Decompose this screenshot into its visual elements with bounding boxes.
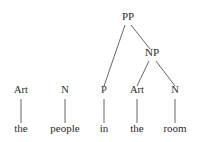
node-pp: PP	[122, 11, 134, 22]
word-in: in	[100, 123, 109, 134]
tree-edge-layer	[0, 0, 200, 142]
pos-node-n-1: N	[61, 85, 69, 96]
pos-node-n-2: N	[171, 85, 179, 96]
tree-edge-np-to-n	[156, 61, 175, 86]
word-the-2: the	[130, 123, 143, 134]
tree-edge-np-to-art	[137, 61, 149, 86]
pos-node-p: P	[101, 85, 107, 96]
pos-node-art-2: Art	[130, 85, 144, 96]
word-people: people	[50, 123, 79, 134]
word-room: room	[163, 123, 186, 134]
pos-node-art-1: Art	[14, 85, 28, 96]
tree-edge-pp-to-p	[104, 25, 125, 86]
syntax-tree-figure: PP NP Art N P Art N the people in the ro…	[0, 0, 200, 142]
word-the-1: the	[14, 123, 27, 134]
node-np: NP	[145, 47, 159, 58]
